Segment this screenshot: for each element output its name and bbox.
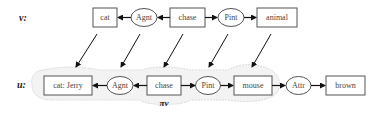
concept-text: cat: Jerry [53, 81, 83, 90]
graph-v: cat Agnt chase Pint animal [93, 8, 297, 27]
mapping-arrow [164, 34, 183, 67]
mapping-arrow [209, 34, 228, 67]
concept-text: cat [100, 13, 110, 22]
projection-label: πv [160, 98, 170, 108]
conceptual-graph-diagram: v: u: cat Agnt chase Pint animal cat: Je… [0, 0, 383, 115]
concept-text: chase [155, 81, 173, 90]
concept-text: animal [266, 13, 289, 22]
mapping-arrow [76, 34, 97, 67]
relation-text: Agnt [112, 81, 129, 90]
relation-text: Attr [292, 81, 305, 90]
concept-text: chase [179, 13, 197, 22]
mapping-arrow [252, 34, 271, 67]
relation-text: Pint [225, 13, 239, 22]
relation-text: Pint [202, 81, 216, 90]
graph-u: cat: Jerry Agnt chase Pint mouse Attr br… [44, 76, 365, 95]
relation-text: Agnt [136, 13, 153, 22]
graph-u-label: u: [17, 79, 26, 90]
projection-arrows [76, 34, 271, 67]
graph-v-label: v: [19, 12, 27, 23]
concept-text: mouse [243, 81, 264, 90]
mapping-arrow [121, 34, 140, 67]
concept-text: brown [335, 81, 355, 90]
